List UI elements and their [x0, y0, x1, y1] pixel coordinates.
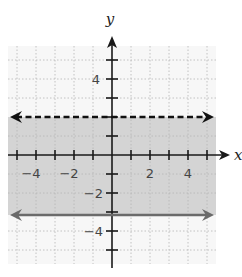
- y-tick-label-neg2: −2: [84, 186, 103, 201]
- x-tick-label-2: 2: [146, 166, 154, 181]
- x-tick-label-4: 4: [184, 166, 192, 181]
- x-axis-label: x: [234, 146, 242, 164]
- y-axis-label: y: [105, 10, 115, 28]
- x-tick-label-neg2: −2: [59, 166, 78, 181]
- inequality-graph: −4 −2 2 4 4 −2 −4 y x: [0, 0, 242, 277]
- x-tick-label-neg4: −4: [21, 166, 40, 181]
- y-tick-label-4: 4: [92, 72, 100, 87]
- y-tick-label-neg4: −4: [84, 224, 103, 239]
